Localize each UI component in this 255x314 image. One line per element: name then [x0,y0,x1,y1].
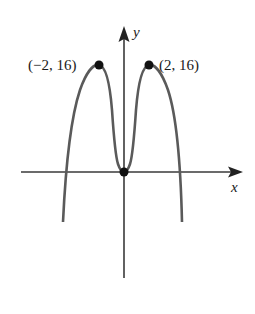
right-peak-point [145,61,154,70]
x-axis [21,167,243,178]
x-axis-label: x [230,179,238,195]
left-peak-point [95,61,104,70]
function-curve [63,65,182,222]
right-peak-label: (2, 16) [159,57,199,74]
function-graph: (−2, 16) (2, 16) y x [0,0,255,314]
y-axis [119,26,130,278]
origin-point [120,168,129,177]
y-axis-label: y [131,24,140,40]
left-peak-label: (−2, 16) [28,57,76,74]
